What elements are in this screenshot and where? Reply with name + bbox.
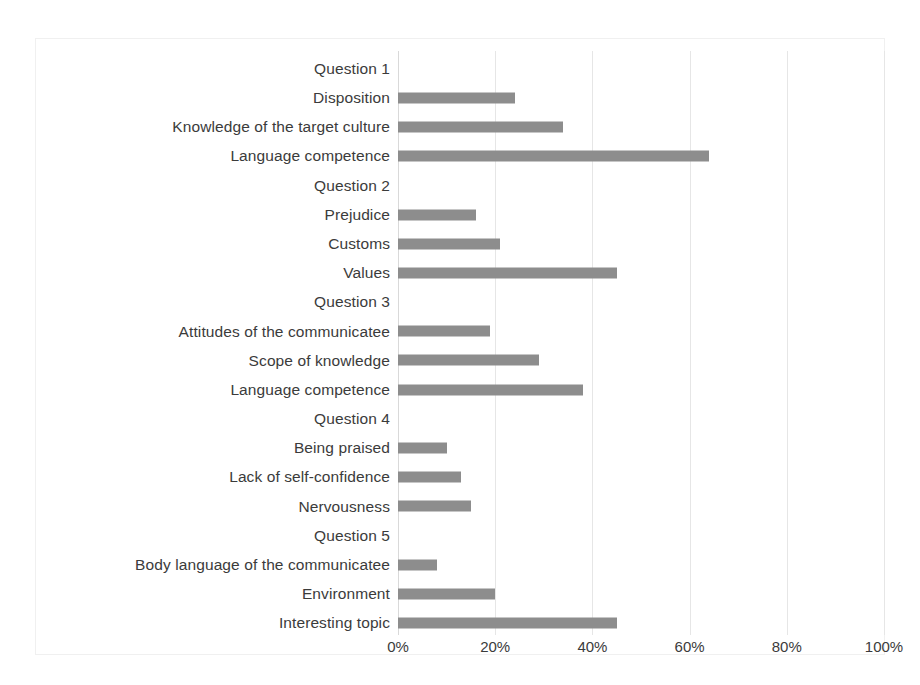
bar-row: Interesting topic [36, 609, 884, 638]
category-label: Question 2 [36, 178, 398, 194]
bar-row: Scope of knowledge [36, 346, 884, 375]
bar-row: Prejudice [36, 200, 884, 229]
bar [398, 588, 495, 599]
category-label: Scope of knowledge [36, 353, 398, 369]
bar [398, 443, 447, 454]
x-axis: 0%20%40%60%80%100% [398, 635, 884, 665]
category-label: Disposition [36, 90, 398, 106]
bar [398, 326, 490, 337]
bar-track [398, 288, 884, 317]
bar-track [398, 258, 884, 287]
x-tick-label: 0% [387, 639, 409, 654]
category-label: Language competence [36, 382, 398, 398]
bar-row: Question 2 [36, 171, 884, 200]
bar [398, 355, 539, 366]
category-label: Question 1 [36, 61, 398, 77]
bar-row: Lack of self-confidence [36, 463, 884, 492]
bar-row: Question 4 [36, 404, 884, 433]
bar [398, 267, 617, 278]
bar-chart-figure: Question 1DispositionKnowledge of the ta… [35, 38, 885, 655]
bar-row: Disposition [36, 83, 884, 112]
bar-track [398, 404, 884, 433]
bar [398, 618, 617, 629]
plot-area: Question 1DispositionKnowledge of the ta… [36, 39, 884, 654]
bar-row: Nervousness [36, 492, 884, 521]
x-tick-label: 60% [675, 639, 705, 654]
bar-row: Language competence [36, 375, 884, 404]
category-label: Knowledge of the target culture [36, 119, 398, 135]
category-label: Lack of self-confidence [36, 469, 398, 485]
bar-row: Environment [36, 579, 884, 608]
bar-track [398, 492, 884, 521]
bar-track [398, 317, 884, 346]
category-label: Environment [36, 586, 398, 602]
category-label: Language competence [36, 148, 398, 164]
bar-row: Question 5 [36, 521, 884, 550]
bar-row: Body language of the communicatee [36, 550, 884, 579]
bar-row: Question 1 [36, 54, 884, 83]
bar-track [398, 521, 884, 550]
bar-row: Values [36, 258, 884, 287]
bar [398, 501, 471, 512]
x-tick-label: 20% [480, 639, 510, 654]
bar-track [398, 433, 884, 462]
category-label: Question 4 [36, 411, 398, 427]
gridline-100 [884, 51, 885, 635]
bar-row: Being praised [36, 433, 884, 462]
bar-row: Knowledge of the target culture [36, 112, 884, 141]
bar [398, 238, 500, 249]
bar-track [398, 609, 884, 638]
bar-row: Question 3 [36, 288, 884, 317]
bar-rows: Question 1DispositionKnowledge of the ta… [36, 54, 884, 638]
bar-track [398, 200, 884, 229]
category-label: Values [36, 265, 398, 281]
category-label: Customs [36, 236, 398, 252]
bar [398, 209, 476, 220]
category-label: Question 5 [36, 528, 398, 544]
x-tick-label: 100% [865, 639, 903, 654]
category-label: Nervousness [36, 499, 398, 515]
bar-track [398, 346, 884, 375]
bar-track [398, 171, 884, 200]
bar [398, 384, 583, 395]
category-label: Prejudice [36, 207, 398, 223]
bar [398, 92, 515, 103]
bar-track [398, 112, 884, 141]
bar-track [398, 463, 884, 492]
category-label: Body language of the communicatee [36, 557, 398, 573]
category-label: Being praised [36, 440, 398, 456]
bar-row: Customs [36, 229, 884, 258]
bar [398, 121, 563, 132]
x-tick-label: 40% [577, 639, 607, 654]
bar-track [398, 142, 884, 171]
bar [398, 151, 709, 162]
category-label: Interesting topic [36, 615, 398, 631]
bar [398, 472, 461, 483]
bar-track [398, 54, 884, 83]
bar-row: Attitudes of the communicatee [36, 317, 884, 346]
bar-row: Language competence [36, 142, 884, 171]
category-label: Question 3 [36, 294, 398, 310]
bar-track [398, 550, 884, 579]
x-tick-label: 80% [772, 639, 802, 654]
category-label: Attitudes of the communicatee [36, 324, 398, 340]
bar-track [398, 83, 884, 112]
bar-track [398, 375, 884, 404]
bar [398, 559, 437, 570]
bar-track [398, 579, 884, 608]
bar-track [398, 229, 884, 258]
